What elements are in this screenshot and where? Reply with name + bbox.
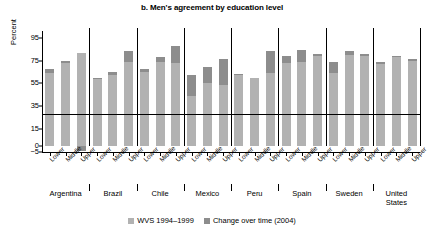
bar-segment-baseline	[345, 55, 354, 146]
x-axis-group-label: UnitedStates	[386, 190, 408, 207]
bar-segment-change	[392, 56, 401, 57]
bar	[61, 32, 70, 152]
bar	[329, 32, 338, 152]
bar-segment-baseline	[140, 72, 149, 146]
group-separator	[278, 28, 279, 146]
bar-segment-baseline	[250, 78, 259, 147]
bar	[313, 32, 322, 152]
bar-segment-change	[297, 50, 306, 61]
country-separator	[278, 184, 279, 191]
bar-segment-change	[313, 54, 322, 56]
x-axis-group-label: Mexico	[195, 190, 219, 199]
bar-segment-change	[140, 69, 149, 72]
y-axis-tick-mark	[39, 129, 42, 130]
bar-segment-baseline	[392, 57, 401, 146]
bar-segment-change	[282, 56, 291, 63]
bar-segment-change	[156, 57, 165, 62]
bar	[219, 32, 228, 152]
bar	[93, 32, 102, 152]
y-axis-title: Percent	[9, 2, 18, 62]
bar	[171, 32, 180, 152]
bar	[392, 32, 401, 152]
y-axis-tick-mark	[39, 106, 42, 107]
bar-segment-change	[329, 62, 338, 73]
bar-segment-baseline	[266, 73, 275, 146]
bar-segment-change	[45, 69, 54, 74]
x-axis-group-label: Chile	[152, 190, 169, 199]
country-separator	[137, 184, 138, 191]
y-axis-tick-label: 35	[31, 103, 39, 111]
bar-segment-change	[345, 51, 354, 54]
bar	[408, 32, 417, 152]
bar-segment-baseline	[45, 73, 54, 146]
bar-segment-baseline	[219, 85, 228, 147]
bar-segment-change	[266, 51, 275, 73]
bar-segment-baseline	[124, 62, 133, 147]
plot-right-border	[420, 28, 421, 146]
x-axis-group-label: Spain	[292, 190, 311, 199]
bar-segment-baseline	[360, 56, 369, 146]
legend-swatch	[128, 218, 134, 224]
bar	[250, 32, 259, 152]
bar	[140, 32, 149, 152]
bar-segment-change	[124, 51, 133, 61]
group-separator	[326, 28, 327, 146]
bar-segment-baseline	[156, 62, 165, 147]
legend-item: Change over time (2004)	[204, 216, 296, 225]
y-axis-tick-mark	[39, 37, 42, 38]
y-axis-tick-label: 15	[31, 125, 39, 133]
bar	[108, 32, 117, 152]
y-axis-tick-mark	[39, 83, 42, 84]
zero-baseline	[42, 114, 420, 115]
bar-segment-baseline	[77, 53, 86, 147]
bar-segment-change	[61, 61, 70, 63]
y-axis-tick-mark	[39, 60, 42, 61]
group-separator	[231, 28, 232, 146]
bar-segment-change	[171, 46, 180, 63]
bar-segment-baseline	[408, 61, 417, 147]
country-separator	[326, 184, 327, 191]
y-axis-tick-label: 95	[31, 34, 39, 42]
bar-segment-baseline	[234, 75, 243, 146]
bar-segment-baseline	[108, 75, 117, 146]
country-separator	[373, 184, 374, 191]
legend-label: WVS 1994–1999	[137, 216, 194, 225]
bar-segment-baseline	[297, 62, 306, 147]
x-axis-group-label: Brazil	[103, 190, 122, 199]
bar-segment-change	[219, 59, 228, 84]
group-separator	[184, 28, 185, 146]
bar	[156, 32, 165, 152]
plot-area: −501535557595	[42, 32, 420, 152]
bar	[234, 32, 243, 152]
chart-title: b. Men's agreement by education level	[0, 3, 424, 12]
country-separator	[231, 184, 232, 191]
x-axis-group-label: Argentina	[50, 190, 82, 199]
group-separator	[137, 28, 138, 146]
bar-segment-change	[187, 75, 196, 96]
y-axis-tick-mark	[39, 146, 42, 147]
bar-segment-change	[234, 74, 243, 75]
bar	[360, 32, 369, 152]
legend-item: WVS 1994–1999	[128, 216, 194, 225]
bar-segment-change	[203, 67, 212, 83]
bar-segment-baseline	[61, 63, 70, 146]
bar	[187, 32, 196, 152]
y-axis-tick-mark	[39, 152, 42, 153]
x-axis-group-label: Peru	[247, 190, 263, 199]
bar-segment-change	[108, 72, 117, 75]
bar	[297, 32, 306, 152]
bar-segment-baseline	[313, 56, 322, 146]
bar-segment-change	[93, 78, 102, 79]
x-axis-group-label: Sweden	[336, 190, 363, 199]
bar-segment-baseline	[329, 73, 338, 146]
legend-swatch	[204, 218, 210, 224]
bar	[345, 32, 354, 152]
bar-segment-baseline	[187, 96, 196, 146]
bar	[376, 32, 385, 152]
group-separator	[373, 28, 374, 146]
bar	[77, 32, 86, 152]
bar	[124, 32, 133, 152]
y-axis-tick-label: 75	[31, 57, 39, 65]
bar-segment-change	[360, 54, 369, 56]
